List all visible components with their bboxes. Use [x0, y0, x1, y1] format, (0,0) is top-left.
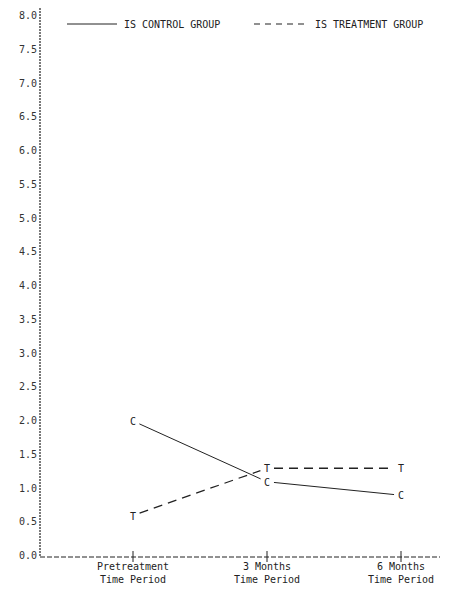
- x-tick-label-line: 6 Months: [377, 561, 425, 572]
- x-tick-label-line: Time Period: [234, 574, 300, 585]
- y-tick-label: 0.0: [19, 550, 37, 561]
- y-tick-label: 6.0: [19, 145, 37, 156]
- legend: IS CONTROL GROUPIS TREATMENT GROUP: [67, 19, 423, 30]
- y-tick-label: 2.5: [19, 381, 37, 392]
- y-tick-label: 8.0: [19, 10, 37, 21]
- series-segment-c: [274, 482, 394, 494]
- x-tick-label: 6 MonthsTime Period: [368, 561, 434, 585]
- data-point-t: T: [264, 463, 270, 474]
- y-tick-label: 2.0: [19, 415, 37, 426]
- data-point-t: T: [398, 463, 404, 474]
- data-point-c: C: [130, 416, 136, 427]
- y-tick-label: 3.0: [19, 348, 37, 359]
- y-tick-label: 6.5: [19, 111, 37, 122]
- y-tick-label: 0.5: [19, 516, 37, 527]
- data-point-t: T: [130, 511, 136, 522]
- legend-label-control: IS CONTROL GROUP: [124, 19, 220, 30]
- y-tick-label: 4.5: [19, 246, 37, 257]
- x-tick-label: PretreatmentTime Period: [97, 561, 169, 585]
- y-tick-label: 7.0: [19, 78, 37, 89]
- y-tick-label: 5.0: [19, 213, 37, 224]
- x-tick-label-line: Time Period: [368, 574, 434, 585]
- y-tick-label: 5.5: [19, 179, 37, 190]
- y-tick-label: 1.5: [19, 449, 37, 460]
- y-tick-label: 3.5: [19, 314, 37, 325]
- x-tick-label: 3 MonthsTime Period: [234, 561, 300, 585]
- series-segment-c: [139, 424, 260, 479]
- legend-label-treatment: IS TREATMENT GROUP: [315, 19, 423, 30]
- y-tick-label: 7.5: [19, 44, 37, 55]
- y-tick-label: 4.0: [19, 280, 37, 291]
- data-point-c: C: [264, 477, 270, 488]
- x-tick-label-line: Time Period: [100, 574, 166, 585]
- x-tick-label-line: 3 Months: [243, 561, 291, 572]
- series-segment-t: [140, 471, 261, 514]
- y-tick-label: 1.0: [19, 483, 37, 494]
- data-point-c: C: [398, 490, 404, 501]
- axes: 0.00.51.01.52.02.53.03.54.04.55.05.56.06…: [19, 8, 440, 585]
- line-chart: 0.00.51.01.52.02.53.03.54.04.55.05.56.06…: [0, 0, 450, 601]
- series-layer: CCCTTT: [130, 416, 404, 522]
- x-tick-label-line: Pretreatment: [97, 561, 169, 572]
